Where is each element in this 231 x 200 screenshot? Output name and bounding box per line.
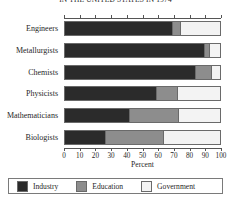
- category-label-physicists: Physicists: [0, 86, 58, 101]
- stacked-bar-mathematicians: [64, 108, 221, 123]
- bar-segment-government-chemists: [211, 66, 220, 79]
- legend-swatch-education: [76, 181, 87, 192]
- x-axis-label: Percent: [64, 160, 221, 169]
- legend-swatch-government: [141, 181, 152, 192]
- bar-segment-government-engineers: [180, 22, 220, 35]
- bar-segment-education-mathematicians: [129, 109, 179, 122]
- bar-row: Chemists: [64, 65, 221, 80]
- bar-row: Biologists: [64, 130, 221, 145]
- chart-title: IN THE UNITED STATES IN 1974: [0, 0, 231, 4]
- bar-segment-industry-engineers: [65, 22, 172, 35]
- category-label-metallurgists: Metallurgists: [0, 43, 58, 58]
- stacked-bar-physicists: [64, 86, 221, 101]
- plot-area: EngineersMetallurgistsChemistsPhysicists…: [64, 18, 221, 148]
- stacked-bar-biologists: [64, 130, 221, 145]
- bar-segment-education-engineers: [172, 22, 180, 35]
- legend-item-education: Education: [68, 179, 133, 193]
- legend-label-industry: Industry: [33, 182, 58, 191]
- bar-segment-government-mathematicians: [178, 109, 220, 122]
- bar-rows: EngineersMetallurgistsChemistsPhysicists…: [64, 18, 221, 148]
- category-label-chemists: Chemists: [0, 65, 58, 80]
- bar-segment-government-metallurgists: [209, 44, 220, 57]
- bar-row: Mathematicians: [64, 108, 221, 123]
- bar-segment-industry-mathematicians: [65, 109, 129, 122]
- bar-segment-industry-metallurgists: [65, 44, 204, 57]
- stacked-bar-chart: IN THE UNITED STATES IN 1974 EngineersMe…: [0, 0, 231, 200]
- legend-item-industry: Industry: [9, 179, 68, 193]
- bar-segment-education-chemists: [195, 66, 211, 79]
- legend-item-government: Government: [133, 179, 205, 193]
- legend-swatch-industry: [17, 181, 28, 192]
- bar-segment-education-biologists: [105, 131, 162, 144]
- stacked-bar-engineers: [64, 21, 221, 36]
- axis-tick-top-100: [221, 15, 222, 18]
- legend-label-government: Government: [157, 182, 195, 191]
- bar-row: Engineers: [64, 21, 221, 36]
- bar-segment-government-biologists: [163, 131, 220, 144]
- category-label-biologists: Biologists: [0, 130, 58, 145]
- category-label-engineers: Engineers: [0, 21, 58, 36]
- chart-legend: IndustryEducationGovernment: [8, 178, 223, 194]
- bar-segment-government-physicists: [177, 87, 220, 100]
- bar-segment-education-physicists: [156, 87, 176, 100]
- stacked-bar-chemists: [64, 65, 221, 80]
- bar-segment-industry-chemists: [65, 66, 195, 79]
- stacked-bar-metallurgists: [64, 43, 221, 58]
- bar-row: Physicists: [64, 86, 221, 101]
- bar-segment-industry-physicists: [65, 87, 156, 100]
- bar-segment-industry-biologists: [65, 131, 105, 144]
- bar-row: Metallurgists: [64, 43, 221, 58]
- legend-label-education: Education: [92, 182, 123, 191]
- category-label-mathematicians: Mathematicians: [0, 108, 58, 123]
